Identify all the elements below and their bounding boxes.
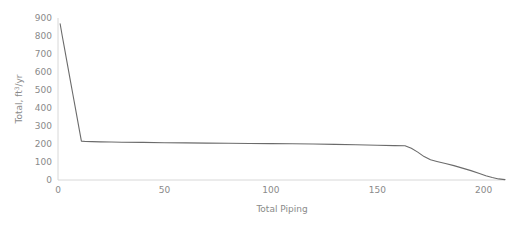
y-axis-title-tail: /yr	[14, 74, 24, 86]
x-tick-label: 100	[262, 185, 279, 195]
y-axis-title-main: Total, ft	[14, 90, 24, 125]
y-axis-title: Total, ft3/yr	[13, 74, 24, 124]
y-tick-label: 100	[35, 157, 52, 167]
svg-text:Total, ft3/yr: Total, ft3/yr	[13, 74, 24, 124]
y-tick-label: 500	[35, 85, 52, 95]
line-chart: 0100200300400500600700800900 05010015020…	[0, 0, 519, 228]
x-tick-label: 0	[55, 185, 61, 195]
y-tick-label: 200	[35, 139, 52, 149]
x-tick-label: 150	[369, 185, 386, 195]
x-axis-title: Total Piping	[255, 204, 307, 214]
x-tick-label: 200	[475, 185, 492, 195]
y-tick-labels: 0100200300400500600700800900	[35, 13, 52, 185]
data-series-line	[60, 24, 505, 180]
y-tick-label: 400	[35, 103, 52, 113]
x-tick-labels: 050100150200	[55, 185, 492, 195]
y-tick-label: 0	[46, 175, 52, 185]
chart-figure: 0100200300400500600700800900 05010015020…	[0, 0, 519, 228]
y-tick-label: 600	[35, 67, 52, 77]
y-tick-label: 800	[35, 31, 52, 41]
x-tick-label: 50	[159, 185, 171, 195]
y-tick-label: 900	[35, 13, 52, 23]
y-tick-label: 700	[35, 49, 52, 59]
y-tick-label: 300	[35, 121, 52, 131]
